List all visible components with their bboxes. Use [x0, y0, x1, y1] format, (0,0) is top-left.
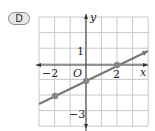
- point: [83, 78, 89, 84]
- tick-label-x-neg2: −2: [42, 67, 58, 80]
- coordinate-graph: y x O −2 2 1 −3: [0, 0, 155, 131]
- point: [52, 93, 58, 99]
- tick-label-y-1: 1: [77, 45, 84, 58]
- y-label: y: [89, 11, 97, 24]
- origin-label: O: [73, 67, 82, 80]
- tick-label-y-neg3: −3: [69, 108, 85, 121]
- x-label: x: [140, 66, 147, 79]
- tick-label-x-2: 2: [113, 68, 120, 81]
